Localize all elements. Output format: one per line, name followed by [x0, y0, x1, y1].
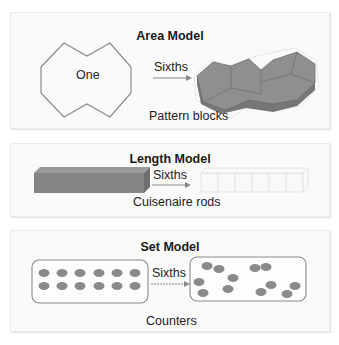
length-model-title: Length Model	[11, 152, 329, 166]
pattern-blocks-icon	[191, 38, 326, 118]
arrow-right-icon	[153, 73, 193, 83]
arrow-label: Sixths	[152, 266, 186, 280]
scattered-counters-box-icon	[189, 256, 324, 306]
counter-grid-box-icon	[31, 259, 161, 309]
caption: Counters	[146, 314, 197, 328]
long-rod-icon	[34, 165, 154, 195]
set-model-panel: Set Model Sixths Counters	[10, 230, 330, 332]
arrow-right-icon	[152, 180, 192, 190]
six-small-cubes-icon	[201, 166, 321, 196]
area-model-panel: Area Model One Sixths Pattern blocks	[10, 12, 330, 129]
set-model-title: Set Model	[11, 240, 329, 254]
whole-label: One	[76, 68, 100, 82]
arrow-label: Sixths	[154, 60, 188, 74]
caption: Cuisenaire rods	[133, 195, 221, 209]
arrow-right-icon	[151, 279, 191, 289]
caption: Pattern blocks	[149, 109, 228, 123]
length-model-panel: Length Model Sixths Cuisenaire rods	[10, 143, 330, 217]
